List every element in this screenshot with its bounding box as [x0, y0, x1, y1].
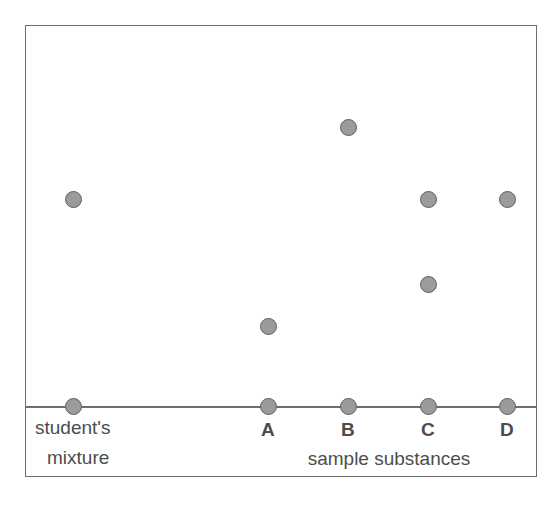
- chromatography-spot-student-s-mixture-0: [65, 398, 82, 415]
- chromatography-figure: student's mixture A B C D sample substan…: [0, 0, 559, 506]
- mixture-label-line1: student's: [35, 417, 110, 439]
- chromatography-spot-a-1: [260, 318, 277, 335]
- mixture-label-line2: mixture: [47, 447, 109, 469]
- chromatography-spot-c-2: [420, 191, 437, 208]
- plate-frame: [25, 25, 537, 477]
- lane-label-d: D: [500, 419, 514, 441]
- chromatography-spot-a-0: [260, 398, 277, 415]
- chromatography-spot-b-1: [340, 119, 357, 136]
- origin-baseline: [25, 406, 537, 408]
- chromatography-spot-d-1: [499, 191, 516, 208]
- lane-label-c: C: [421, 419, 435, 441]
- lane-label-a: A: [261, 419, 275, 441]
- lane-label-b: B: [341, 419, 355, 441]
- chromatography-spot-student-s-mixture-1: [65, 191, 82, 208]
- samples-caption: sample substances: [308, 448, 471, 470]
- chromatography-spot-d-0: [499, 398, 516, 415]
- chromatography-spot-c-1: [420, 276, 437, 293]
- chromatography-spot-b-0: [340, 398, 357, 415]
- chromatography-spot-c-0: [420, 398, 437, 415]
